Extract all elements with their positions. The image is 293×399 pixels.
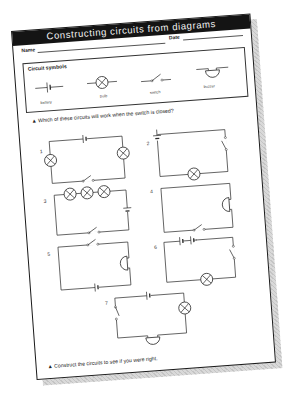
- name-field-line[interactable]: [38, 43, 166, 53]
- footer-instruction: ▲ Construct the circuits to see if you w…: [47, 355, 157, 369]
- circuit-7-diagram: [115, 290, 190, 343]
- circuit-6-diagram: [164, 234, 239, 285]
- circuit-3-number: 3: [43, 198, 46, 204]
- circuit-symbols-box: Circuit symbols battery bulb: [22, 47, 248, 113]
- circuit-7-number: 7: [105, 300, 108, 306]
- circuit-4-diagram: [161, 181, 236, 234]
- circuit-1-number: 1: [40, 148, 43, 154]
- circuit-4-number: 4: [150, 188, 153, 194]
- circuit-3-diagram: [54, 186, 131, 237]
- circuit-1-diagram: [49, 134, 126, 185]
- circuit-5-number: 5: [47, 251, 50, 257]
- switch-icon: [140, 70, 171, 84]
- battery-icon: [35, 80, 64, 94]
- switch-label: switch: [150, 90, 161, 95]
- date-field-line[interactable]: [183, 35, 243, 40]
- date-field-label: Date: [169, 34, 180, 43]
- buzzer-icon: [196, 63, 229, 79]
- buzzer-label: buzzer: [203, 84, 215, 89]
- bulb-label: bulb: [100, 94, 107, 99]
- circuit-symbols-heading: Circuit symbols: [28, 63, 67, 72]
- circuit-5-diagram: [58, 240, 133, 293]
- worksheet-title: Constructing circuits from diagrams: [12, 14, 250, 45]
- bulb-icon: [87, 74, 118, 90]
- circuit-2-diagram: [157, 127, 230, 178]
- worksheet-sheet: Constructing circuits from diagrams Name…: [11, 13, 276, 380]
- name-field-label: Name: [21, 46, 35, 55]
- battery-label: battery: [40, 100, 52, 105]
- worksheet-page: Constructing circuits from diagrams Name…: [11, 13, 276, 380]
- circuit-2-number: 2: [146, 140, 149, 146]
- circuit-6-number: 6: [154, 244, 157, 250]
